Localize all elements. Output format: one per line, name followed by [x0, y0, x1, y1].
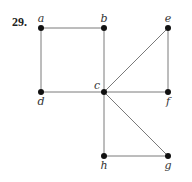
vertex-b [101, 25, 107, 31]
edge-c-e [104, 28, 168, 92]
edge-c-g [104, 92, 168, 156]
graph-figure: 29. abedcfhg [0, 0, 192, 182]
problem-number: 29. [12, 15, 27, 29]
vertex-c [101, 89, 107, 95]
vertex-e [165, 25, 171, 31]
vertex-a [38, 25, 44, 31]
vertex-label-a: a [38, 12, 45, 25]
vertex-label-b: b [100, 12, 107, 25]
vertex-label-g: g [164, 159, 171, 172]
vertex-label-e: e [165, 12, 172, 25]
vertex-label-h: h [100, 159, 107, 172]
graph-canvas: 29. abedcfhg [0, 0, 192, 182]
vertex-label-d: d [37, 95, 44, 108]
vertex-label-f: f [165, 95, 172, 108]
vertex-label-c: c [94, 79, 100, 92]
